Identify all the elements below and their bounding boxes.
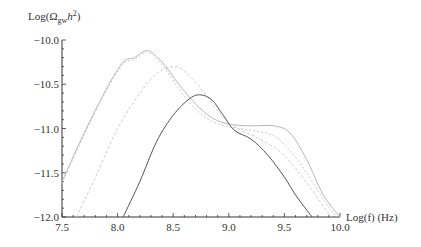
curve-1-light-high <box>62 51 340 217</box>
x-axis-title: Log(f) (Hz) <box>346 211 398 224</box>
y-tick-label: −12.0 <box>34 211 60 223</box>
y-axis-title: Log(Ωgwh2) <box>28 9 81 25</box>
curve-3-light-mid-dashed <box>77 66 332 217</box>
x-tick-label: 8.5 <box>166 221 180 233</box>
y-tick-label: −10.0 <box>34 34 60 46</box>
axes: 7.58.08.59.09.510.0−10.0−10.5−11.0−11.5−… <box>34 34 351 233</box>
curve-4-dark-solid <box>123 95 312 217</box>
curves <box>62 51 340 217</box>
curve-2-light-high-dotted <box>62 52 337 217</box>
gw-spectrum-chart: 7.58.08.59.09.510.0−10.0−10.5−11.0−11.5−… <box>0 0 421 247</box>
y-tick-label: −10.5 <box>34 78 60 90</box>
x-tick-label: 9.5 <box>278 221 292 233</box>
x-tick-label: 9.0 <box>222 221 236 233</box>
x-tick-label: 8.0 <box>111 221 125 233</box>
y-tick-label: −11.0 <box>34 123 60 135</box>
y-tick-label: −11.5 <box>34 167 60 179</box>
